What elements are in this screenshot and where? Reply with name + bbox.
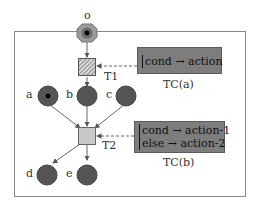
outer-place-label: o <box>84 10 91 22</box>
token-icon <box>46 94 51 99</box>
condition-line-1: cond → action-1 <box>139 124 220 137</box>
outer-place-o[interactable] <box>77 24 97 42</box>
edge-t2-d <box>53 144 80 163</box>
token-icon <box>85 31 90 36</box>
transition-t1[interactable] <box>79 59 96 76</box>
place-e[interactable] <box>77 165 97 185</box>
place-d[interactable] <box>37 165 57 185</box>
transition-t1-label: T1 <box>104 71 118 83</box>
transition-t2[interactable] <box>79 128 96 145</box>
condition-box-tc-b: cond → action-1 else → action-2 <box>134 121 225 153</box>
edge-a-t2 <box>49 104 80 128</box>
condition-box-tc-a: cond → action <box>137 47 222 74</box>
place-b[interactable] <box>77 86 97 106</box>
place-d-label: d <box>26 168 33 180</box>
transition-t2-label: T2 <box>102 140 116 152</box>
place-a-label: a <box>26 89 33 101</box>
place-b-label: b <box>66 89 73 101</box>
place-e-label: e <box>66 168 73 180</box>
condition-line: cond → action <box>142 55 217 68</box>
condition-line-2: else → action-2 <box>139 137 220 150</box>
petri-net-diagram <box>0 0 259 209</box>
place-a[interactable] <box>38 86 58 106</box>
edge-c-t2 <box>95 104 125 128</box>
condition-caption-tc-a: TC(a) <box>163 79 194 91</box>
place-c-label: c <box>106 89 112 101</box>
condition-caption-tc-b: TC(b) <box>163 157 194 169</box>
place-c[interactable] <box>116 86 136 106</box>
